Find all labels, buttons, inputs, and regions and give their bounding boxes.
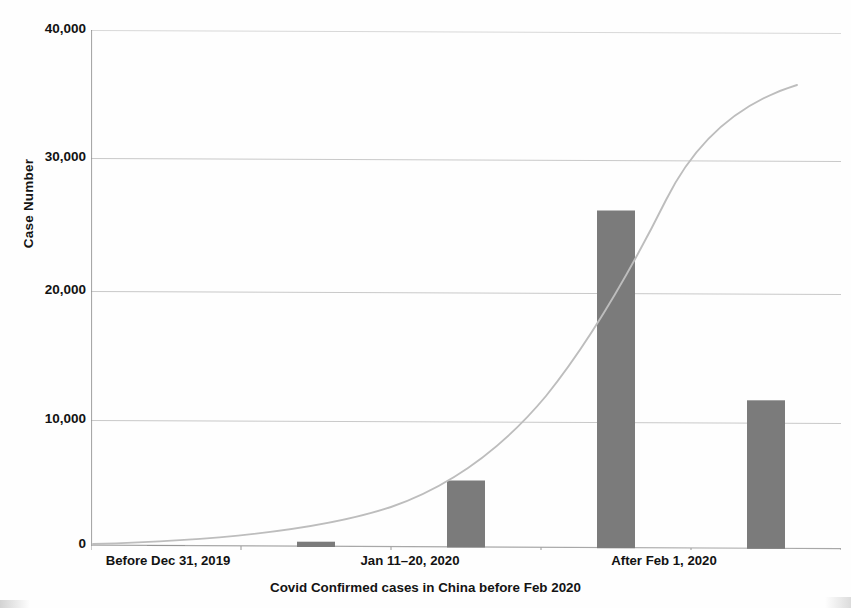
bar-jan-1-10-2020 <box>297 542 335 547</box>
gridline-10000 <box>91 421 841 424</box>
bar-group <box>147 211 785 549</box>
y-axis-tick-label: 20,000 <box>8 282 86 297</box>
exponential-trendline <box>93 85 797 544</box>
chart-svg-canvas <box>91 30 841 550</box>
bar-after-feb-1-2020 <box>747 400 785 549</box>
gridline-40000 <box>91 31 841 34</box>
scan-artifact-right <box>825 597 851 608</box>
bar-jan-21-31-2020 <box>597 211 635 549</box>
bar-jan-11-20-2020 <box>447 481 485 548</box>
y-axis-tick-label: 10,000 <box>8 411 86 426</box>
gridline-group <box>91 31 841 424</box>
y-axis-tick-label: 40,000 <box>8 21 86 36</box>
x-axis-tick-label-before-dec-31-2019: Before Dec 31, 2019 <box>106 553 231 568</box>
plot-area <box>91 30 841 546</box>
bar-before-dec-31-2019 <box>147 545 185 546</box>
scan-artifact-left <box>0 600 30 608</box>
chart-figure: Case Number 40,000 30,000 20,000 10,000 … <box>0 0 851 608</box>
gridline-30000 <box>91 159 841 162</box>
gridline-20000 <box>91 292 841 295</box>
y-axis-tick-label: 0 <box>8 536 86 551</box>
chart-title: Covid Confirmed cases in China before Fe… <box>0 580 851 595</box>
y-axis-tick-label-group: 40,000 30,000 20,000 10,000 0 <box>0 0 86 608</box>
x-axis-tick-label-jan-11-20-2020: Jan 11–20, 2020 <box>361 553 460 568</box>
x-axis-tick-label-after-feb-1-2020: After Feb 1, 2020 <box>611 553 717 568</box>
y-axis-tick-label: 30,000 <box>8 149 86 164</box>
